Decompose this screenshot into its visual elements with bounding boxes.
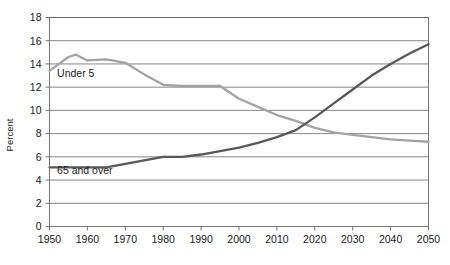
y-tick-label-2: 2 xyxy=(36,197,42,209)
y-axis-title: Percent xyxy=(4,118,15,151)
chart-canvas: 1950196019701980199020002010202020302040… xyxy=(0,0,450,265)
series-line-under-5 xyxy=(50,55,429,142)
x-tick-label-1960: 1960 xyxy=(76,233,100,245)
y-axis-tick-labels: 024681012141618 xyxy=(30,11,42,232)
y-tick-label-10: 10 xyxy=(30,104,42,116)
y-tick-label-14: 14 xyxy=(30,58,42,70)
x-tick-label-1980: 1980 xyxy=(152,233,176,245)
x-axis-tickmarks xyxy=(50,227,429,231)
x-tick-label-1970: 1970 xyxy=(114,233,138,245)
y-tick-label-4: 4 xyxy=(36,174,42,186)
y-tick-label-8: 8 xyxy=(36,127,42,139)
y-tick-label-18: 18 xyxy=(30,11,42,23)
y-tick-label-16: 16 xyxy=(30,35,42,47)
x-tick-label-2040: 2040 xyxy=(379,233,403,245)
x-tick-label-2050: 2050 xyxy=(417,233,441,245)
series-label-under-5: Under 5 xyxy=(57,67,95,79)
line-chart: 1950196019701980199020002010202020302040… xyxy=(0,0,450,265)
x-tick-label-2010: 2010 xyxy=(265,233,289,245)
series-line-65-and-over xyxy=(50,44,429,167)
x-tick-label-2000: 2000 xyxy=(227,233,251,245)
y-tick-label-6: 6 xyxy=(36,151,42,163)
plot-frame xyxy=(50,18,429,227)
x-tick-label-2030: 2030 xyxy=(341,233,365,245)
x-tick-label-1990: 1990 xyxy=(189,233,213,245)
plot-border xyxy=(50,18,429,227)
series-label-65-and-over: 65 and over xyxy=(57,164,113,176)
y-axis-tickmarks xyxy=(46,18,50,227)
x-axis-tick-labels: 1950196019701980199020002010202020302040… xyxy=(38,233,441,245)
y-tick-label-12: 12 xyxy=(30,81,42,93)
x-tick-label-1950: 1950 xyxy=(38,233,62,245)
x-tick-label-2020: 2020 xyxy=(303,233,327,245)
series-annotations: Under 565 and over xyxy=(57,67,113,177)
y-tick-label-0: 0 xyxy=(36,220,42,232)
data-series xyxy=(50,44,429,167)
